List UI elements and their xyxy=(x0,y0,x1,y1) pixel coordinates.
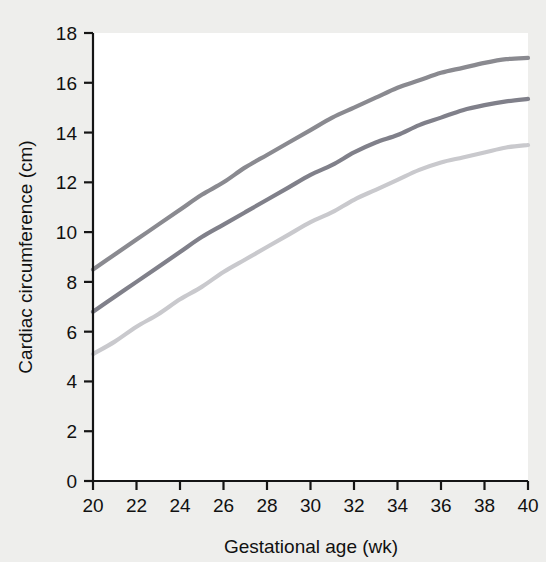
svg-text:4: 4 xyxy=(66,371,77,392)
svg-text:6: 6 xyxy=(66,322,77,343)
svg-text:40: 40 xyxy=(517,495,538,516)
svg-text:36: 36 xyxy=(430,495,451,516)
chart-figure: 2022242628303234363840 024681012141618 G… xyxy=(0,0,546,562)
svg-text:30: 30 xyxy=(300,495,321,516)
line-chart: 2022242628303234363840 024681012141618 G… xyxy=(0,0,546,562)
svg-text:34: 34 xyxy=(387,495,409,516)
svg-text:22: 22 xyxy=(126,495,147,516)
svg-text:32: 32 xyxy=(343,495,364,516)
svg-text:2: 2 xyxy=(66,421,77,442)
plot-area-background xyxy=(93,33,528,481)
svg-text:24: 24 xyxy=(169,495,191,516)
svg-text:16: 16 xyxy=(56,73,77,94)
svg-text:26: 26 xyxy=(213,495,234,516)
svg-text:8: 8 xyxy=(66,272,77,293)
svg-text:14: 14 xyxy=(56,123,78,144)
svg-text:0: 0 xyxy=(66,471,77,492)
svg-text:18: 18 xyxy=(56,23,77,44)
svg-text:28: 28 xyxy=(256,495,277,516)
svg-text:10: 10 xyxy=(56,222,77,243)
svg-text:38: 38 xyxy=(474,495,495,516)
svg-text:20: 20 xyxy=(82,495,103,516)
y-axis-title: Cardiac circumference (cm) xyxy=(15,140,36,373)
svg-text:12: 12 xyxy=(56,172,77,193)
x-axis-title: Gestational age (wk) xyxy=(224,536,398,557)
